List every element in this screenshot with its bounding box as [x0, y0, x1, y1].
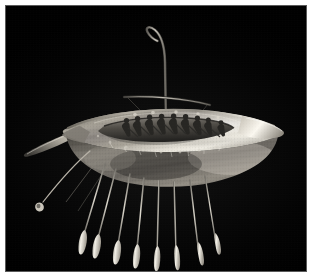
model-boat-illustration	[6, 6, 307, 272]
photo-noise-overlay	[6, 6, 307, 272]
ancient-model-boat	[6, 6, 306, 271]
photograph-frame: Photograph of an ancient wooden model bo…	[0, 0, 312, 280]
photograph-canvas: Photograph of an ancient wooden model bo…	[5, 5, 307, 272]
